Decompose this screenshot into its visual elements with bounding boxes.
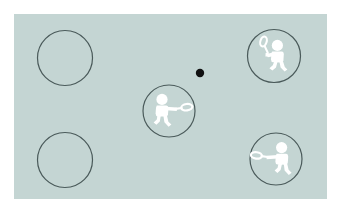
player-head-top-right — [272, 40, 283, 51]
position-bottom-right[interactable] — [250, 133, 302, 185]
position-top-right[interactable] — [248, 30, 301, 83]
position-center[interactable] — [143, 85, 195, 137]
position-ring-bottom-left — [38, 133, 93, 188]
player-icon-center — [154, 94, 193, 127]
player-head-center — [156, 94, 167, 105]
racket-icon-top-right — [259, 36, 268, 53]
racket-icon-center — [176, 103, 193, 111]
player-leg-front-top-right — [269, 62, 277, 71]
player-leg-front-center — [163, 116, 171, 127]
shuttlecock-marker[interactable] — [196, 69, 204, 77]
player-forearm-top-right — [265, 52, 268, 56]
position-bottom-left[interactable] — [38, 133, 93, 188]
player-leg-back-top-right — [279, 61, 287, 71]
court-overlay — [0, 0, 340, 214]
player-leg-front-bottom-right — [275, 164, 282, 173]
player-leg-back-bottom-right — [284, 164, 292, 175]
diagram-canvas — [0, 0, 340, 214]
position-top-left[interactable] — [38, 31, 93, 86]
player-head-bottom-right — [276, 142, 287, 153]
position-ring-top-left — [38, 31, 93, 86]
racket-icon-bottom-right — [250, 151, 267, 159]
player-leg-back-center — [154, 116, 161, 125]
player-icon-bottom-right — [250, 142, 291, 175]
player-icon-top-right — [259, 36, 287, 72]
